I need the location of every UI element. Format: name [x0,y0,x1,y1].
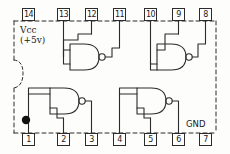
pin-box-2[interactable]: 2 [57,133,70,146]
ic-pinout-diagram: 14 13 12 11 10 9 8 7 6 5 4 3 2 1 Vcc (+5… [0,0,230,154]
pin-box-4[interactable]: 4 [113,133,126,146]
gate-top-right-input-b2 [151,62,158,64]
gate-bottom-right-input-a2 [120,94,138,95]
gate-bottom-right-body [137,88,166,114]
gate-bottom-right-bubble [166,98,172,104]
chip-notch-curve [14,60,23,88]
gate-bottom-right-output [172,101,178,112]
gate-bottom-left-input-a2 [29,94,51,95]
gate-bottom-right [120,88,179,118]
pin-box-10[interactable]: 10 [144,8,157,21]
gate-top-right-body [157,44,186,70]
pin-box-5[interactable]: 5 [144,133,157,146]
pin-box-13[interactable]: 13 [57,8,70,21]
pin-box-7[interactable]: 7 [199,133,212,146]
gate-top-left-input-a [64,50,71,57]
vcc-label: Vcc (+5v) [20,25,45,45]
chip-notch [14,60,23,88]
pin-leads [29,21,206,133]
gate-top-left-body [70,44,99,70]
pin-box-14[interactable]: 14 [22,8,35,21]
gate-top-left-bubble [99,54,105,60]
diagram-canvas [0,0,230,154]
gate-top-right-bubble [186,54,192,60]
gate-top-right-output [192,40,205,57]
gnd-label: GND [186,120,206,129]
gate-top-right-input-a [157,34,179,50]
pin-1-dot [22,116,30,124]
gate-top-left [64,34,120,70]
gate-bottom-left-body [50,88,79,114]
pin-box-12[interactable]: 12 [85,8,98,21]
gate-top-right [151,34,206,70]
pin-box-1[interactable]: 1 [22,133,35,146]
gate-bottom-left-input-b [50,108,64,118]
gate-bottom-left-output [85,101,91,112]
pin-box-3[interactable]: 3 [85,133,98,146]
pin-box-6[interactable]: 6 [172,133,185,146]
gate-bottom-right-input-b [137,108,151,118]
gate-top-left-input-b [64,34,92,64]
pin-box-8[interactable]: 8 [199,8,212,21]
gate-top-right-input-b [151,62,158,70]
pin-box-11[interactable]: 11 [113,8,126,21]
gate-top-left-output [105,40,119,57]
gate-bottom-left [29,88,92,118]
gate-bottom-left-bubble [79,98,85,104]
pin-box-9[interactable]: 9 [172,8,185,21]
